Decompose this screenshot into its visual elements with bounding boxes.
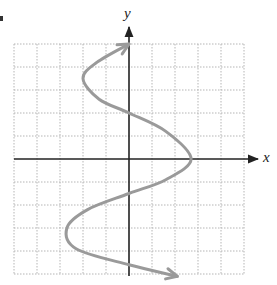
axes (14, 27, 258, 276)
x-axis-label: x (263, 150, 270, 165)
graph (0, 0, 277, 285)
y-axis-label: y (124, 6, 131, 21)
